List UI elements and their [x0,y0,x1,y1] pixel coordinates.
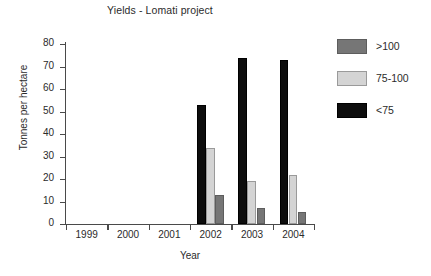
bar-2004-75-100 [289,175,298,225]
bar-2002-<75 [197,105,206,224]
chart-root: Yields - Lomati project 0102030405060708… [0,0,431,276]
bar-2002-75-100 [206,148,215,225]
x-axis-tick-label: 2002 [190,229,232,240]
legend-swatch-icon [337,39,367,54]
bar-2002->100 [215,195,224,224]
legend-label: >100 [376,40,400,52]
bars-layer [66,44,314,224]
x-axis-tick-label: 2001 [148,229,190,240]
x-axis-tick-label: 2003 [231,229,273,240]
y-axis-tick-label: 0 [12,217,54,228]
legend-swatch-icon [337,71,367,86]
legend-label: <75 [376,104,394,116]
legend-item: <75 [337,102,429,118]
y-axis-tick-label: 10 [12,195,54,206]
legend-item: 75-100 [337,70,429,86]
x-axis-tick-label: 1999 [66,229,108,240]
chart-title: Yields - Lomati project [0,4,320,16]
legend-swatch-icon [337,103,367,118]
bar-2004-<75 [280,60,289,224]
x-axis-label: Year [66,250,314,261]
bar-2003->100 [257,208,266,224]
x-axis-tick-label: 2004 [272,229,314,240]
legend-label: 75-100 [376,72,409,84]
y-axis-label: Tonnes per hectare [18,38,29,178]
x-axis-tick-label: 2000 [107,229,149,240]
bar-2004->100 [298,212,307,224]
bar-2003-<75 [238,58,247,225]
bar-2003-75-100 [247,181,256,224]
chart-legend: >10075-100<75 [337,38,429,134]
legend-item: >100 [337,38,429,54]
